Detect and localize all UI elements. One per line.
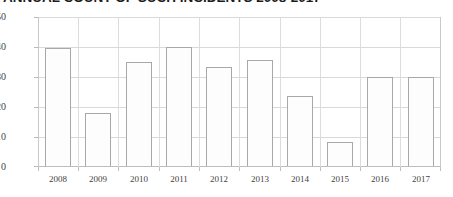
bar-2013: [247, 60, 273, 166]
x-axis-tick-label-2009: 2009: [78, 174, 118, 185]
bar-2011: [166, 47, 192, 166]
x-axis-tick-label-2013: 2013: [240, 174, 280, 185]
x-axis-tick-label-2015: 2015: [320, 174, 360, 185]
x-tick-mark-8: [360, 167, 361, 171]
x-axis-tick-label-2017: 2017: [401, 174, 441, 185]
x-tick-mark-6: [280, 167, 281, 171]
x-axis-tick-label-2011: 2011: [159, 174, 199, 185]
y-axis-tick-label-50: 50: [0, 12, 6, 22]
chart-title-clip: ANNUAL COUNT OF SUCH INCIDENTS 2008-2017: [0, 0, 453, 7]
bar-2010: [126, 62, 152, 166]
bar-2016: [367, 77, 393, 166]
x-axis-tick-label-2016: 2016: [360, 174, 400, 185]
vertical-gridline-4: [199, 17, 200, 167]
x-tick-mark-5: [239, 167, 240, 171]
x-tick-mark-2: [118, 167, 119, 171]
x-axis-tick-label-2010: 2010: [119, 174, 159, 185]
plot-area: [38, 17, 441, 167]
x-tick-mark-1: [78, 167, 79, 171]
vertical-gridline-6: [280, 17, 281, 167]
x-tick-mark-9: [400, 167, 401, 171]
x-axis-tick-label-2008: 2008: [38, 174, 78, 185]
vertical-gridline-3: [159, 17, 160, 167]
vertical-gridline-left-edge: [38, 17, 39, 167]
x-tick-mark-3: [159, 167, 160, 171]
bar-2008: [45, 48, 71, 166]
vertical-gridline-5: [239, 17, 240, 167]
vertical-gridline-8: [360, 17, 361, 167]
bar-2012: [206, 67, 232, 166]
vertical-gridline-right-edge: [440, 17, 441, 167]
x-axis-tick-label-2014: 2014: [280, 174, 320, 185]
vertical-gridline-7: [320, 17, 321, 167]
bar-chart-figure: ANNUAL COUNT OF SUCH INCIDENTS 2008-2017…: [0, 0, 453, 197]
y-axis-tick-label-20: 20: [0, 102, 6, 112]
vertical-gridline-9: [400, 17, 401, 167]
vertical-gridline-2: [118, 17, 119, 167]
y-axis-tick-label-10: 10: [0, 132, 6, 142]
x-tick-mark-0: [38, 167, 39, 171]
y-axis-tick-label-40: 40: [0, 42, 6, 52]
bar-2014: [287, 96, 313, 166]
x-axis-tick-label-2012: 2012: [199, 174, 239, 185]
x-tick-mark-10: [440, 167, 441, 171]
bar-2017: [408, 77, 434, 166]
x-tick-mark-4: [199, 167, 200, 171]
y-axis-tick-label-30: 30: [0, 72, 6, 82]
chart-title: ANNUAL COUNT OF SUCH INCIDENTS 2008-2017: [3, 0, 321, 5]
bar-2015: [327, 142, 353, 166]
y-axis-tick-label-0: 0: [0, 162, 6, 172]
x-tick-mark-7: [320, 167, 321, 171]
x-axis: 2008 2009 2010 2011 2012 2013 2014 2015 …: [38, 167, 441, 197]
bar-2009: [85, 113, 111, 166]
vertical-gridline-1: [78, 17, 79, 167]
